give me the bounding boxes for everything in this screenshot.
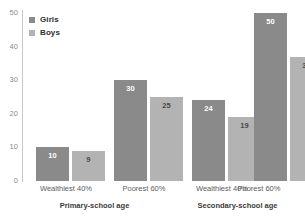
y-tick-20: 20 <box>0 110 18 118</box>
bar-value-label: 24 <box>192 104 225 113</box>
bars-layer: 10 9 30 25 24 19 50 37 <box>22 5 303 181</box>
x-tick-secondary-poorest: Poorest 60% <box>213 184 305 193</box>
bar-boys-secondary-poorest: 37 <box>290 57 305 181</box>
y-tick-10: 10 <box>0 143 18 151</box>
group-label-secondary: Secondary-school age <box>170 201 305 210</box>
bar-girls-secondary-wealthiest: 24 <box>192 100 225 181</box>
bar-girls-primary-wealthiest: 10 <box>36 147 69 181</box>
bar-value-label: 25 <box>150 101 183 110</box>
bar-chart: 50 40 30 20 10 0 Girls Boys 10 9 30 25 <box>0 0 305 216</box>
bar-value-label: 37 <box>290 61 305 70</box>
bar-girls-primary-poorest: 30 <box>114 80 147 181</box>
bar-girls-secondary-poorest: 50 <box>254 13 287 181</box>
bar-value-label: 9 <box>72 155 105 164</box>
y-tick-40: 40 <box>0 43 18 51</box>
y-tick-30: 30 <box>0 76 18 84</box>
chart-title-cropped <box>40 0 240 3</box>
y-tick-0: 0 <box>0 177 18 185</box>
bar-value-label: 50 <box>254 17 287 26</box>
bar-value-label: 10 <box>36 151 69 160</box>
group-label-primary: Primary-school age <box>27 201 162 210</box>
bar-value-label: 30 <box>114 84 147 93</box>
y-tick-50: 50 <box>0 9 18 17</box>
bar-boys-primary-wealthiest: 9 <box>72 151 105 181</box>
bar-boys-primary-poorest: 25 <box>150 97 183 181</box>
